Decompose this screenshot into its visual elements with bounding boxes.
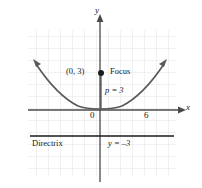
- x-axis-label: x: [186, 103, 190, 112]
- x-tick-label-6: 6: [144, 111, 149, 120]
- x-axis-arrow-icon: [178, 107, 186, 114]
- y-axis-arrow-icon: [97, 14, 104, 22]
- y-axis-label: y: [95, 6, 99, 15]
- grid-area: [28, 30, 176, 176]
- graph-canvas: [0, 0, 202, 188]
- directrix-equation-label: y = –3: [108, 139, 130, 148]
- p-distance-label: p = 3: [105, 86, 124, 95]
- focus-coordinate-label: (0, 3): [66, 67, 84, 76]
- focus-point-marker: [98, 70, 104, 76]
- parabola-figure: y x 0 6 (0, 3) Focus p = 3 Directrix y =…: [0, 0, 202, 188]
- directrix-label: Directrix: [32, 139, 63, 148]
- origin-label: 0: [90, 111, 95, 120]
- focus-label: Focus: [110, 67, 130, 76]
